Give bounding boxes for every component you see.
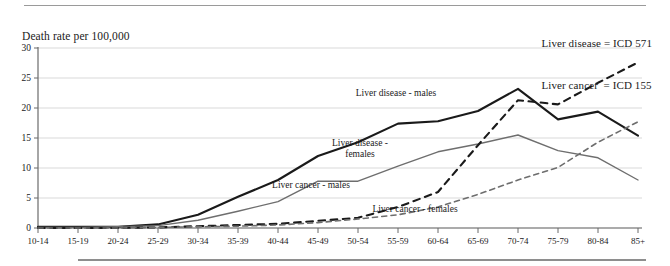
- y-tick-label: 10: [22, 163, 32, 173]
- series-label-liver-disease-males: Liver disease - males: [356, 88, 437, 98]
- x-tick-label: 45-49: [308, 236, 329, 246]
- y-axis-title: Death rate per 100,000: [22, 30, 130, 42]
- y-tick-label: 5: [26, 193, 31, 203]
- series-label-liver-cancer-males: Liver cancer - males: [272, 180, 350, 190]
- x-tick-label: 60-64: [428, 236, 449, 246]
- y-tick-label: 25: [22, 73, 32, 83]
- x-tick-label: 50-54: [348, 236, 369, 246]
- y-axis-ticks-group: 051015202530: [22, 43, 39, 233]
- x-tick-label: 85+: [631, 236, 645, 246]
- x-tick-label: 65-69: [468, 236, 489, 246]
- x-tick-label: 20-24: [108, 236, 129, 246]
- x-tick-label: 30-34: [188, 236, 209, 246]
- figure-container: Liver disease = ICD 571 Liver cancer = I…: [0, 0, 670, 266]
- y-tick-label: 30: [22, 43, 32, 53]
- y-tick-label: 0: [26, 223, 31, 233]
- x-tick-label: 15-19: [68, 236, 89, 246]
- top-divider-rule: [24, 5, 646, 6]
- x-tick-label: 10-14: [28, 236, 49, 246]
- x-tick-label: 25-29: [148, 236, 169, 246]
- x-axis-ticks-group: 10-1415-1920-2425-2930-3435-3940-4445-49…: [28, 228, 646, 246]
- y-tick-label: 15: [22, 133, 32, 143]
- series-label-liver-cancer-females: Liver cancer - females: [372, 204, 457, 214]
- x-tick-label: 75-79: [548, 236, 569, 246]
- x-tick-label: 80-84: [588, 236, 609, 246]
- x-tick-label: 35-39: [228, 236, 249, 246]
- y-tick-label: 20: [22, 103, 32, 113]
- legend-line-liver-disease: Liver disease = ICD 571: [541, 36, 652, 50]
- x-tick-label: 70-74: [508, 236, 529, 246]
- icd-legend: Liver disease = ICD 571 Liver cancer = I…: [541, 8, 652, 120]
- bottom-divider-rule: [78, 259, 646, 261]
- legend-line-liver-cancer: Liver cancer = ICD 155: [541, 78, 652, 92]
- x-tick-label: 40-44: [268, 236, 289, 246]
- x-tick-label: 55-59: [388, 236, 409, 246]
